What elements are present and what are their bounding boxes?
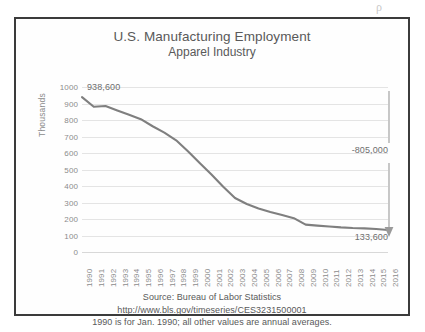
y-tick-0: 0: [73, 248, 78, 257]
x-tick-2011: 2011: [332, 269, 341, 287]
y-tick-200: 200: [64, 215, 78, 224]
line-series: [82, 87, 388, 252]
annotation-start-value: 938,600: [87, 82, 120, 92]
source-line-1: Source: Bureau of Labor Statistics: [16, 291, 408, 304]
x-tick-2014: 2014: [368, 269, 377, 287]
annotation-end-value: 133,600: [340, 232, 388, 242]
x-tick-2001: 2001: [215, 269, 224, 287]
x-tick-1996: 1996: [156, 269, 165, 287]
y-tick-700: 700: [64, 132, 78, 141]
source-line-2: http://www.bls.gov/timeseries/CES3231500…: [16, 304, 408, 317]
x-tick-1993: 1993: [121, 269, 130, 287]
change-arrow-icon: [382, 91, 396, 237]
y-axis-tick-labels: 10009008007006005004003002001000: [50, 87, 78, 252]
x-tick-2015: 2015: [379, 269, 388, 287]
x-tick-1998: 1998: [179, 269, 188, 287]
x-tick-2008: 2008: [297, 269, 306, 287]
x-tick-1997: 1997: [168, 269, 177, 287]
chart-title-block: U.S. Manufacturing Employment Apparel In…: [16, 28, 408, 60]
y-tick-500: 500: [64, 165, 78, 174]
y-tick-300: 300: [64, 198, 78, 207]
x-tick-2010: 2010: [321, 269, 330, 287]
x-tick-2006: 2006: [274, 269, 283, 287]
chart-title: U.S. Manufacturing Employment: [16, 28, 408, 45]
plot-area: [82, 87, 388, 252]
x-axis-tick-labels: 1990199119921993199419951996199719981999…: [82, 255, 388, 289]
x-tick-1990: 1990: [85, 269, 94, 287]
y-tick-900: 900: [64, 99, 78, 108]
chart-subtitle: Apparel Industry: [16, 45, 408, 60]
x-tick-1995: 1995: [144, 269, 153, 287]
series-polyline: [82, 97, 388, 230]
source-line-3: 1990 is for Jan. 1990; all other values …: [16, 316, 408, 329]
x-tick-2012: 2012: [344, 269, 353, 287]
x-tick-2005: 2005: [262, 269, 271, 287]
x-tick-2000: 2000: [203, 269, 212, 287]
scan-artifact-glyph: ρ: [372, 1, 386, 14]
x-tick-2003: 2003: [238, 269, 247, 287]
y-tick-600: 600: [64, 149, 78, 158]
x-tick-2016: 2016: [391, 269, 400, 287]
source-note: Source: Bureau of Labor Statistics http:…: [16, 291, 408, 329]
x-tick-1991: 1991: [97, 269, 106, 287]
chart-figure-frame: U.S. Manufacturing Employment Apparel In…: [14, 17, 410, 316]
x-tick-2007: 2007: [285, 269, 294, 287]
y-tick-400: 400: [64, 182, 78, 191]
gridline-0: [82, 252, 388, 253]
x-tick-1992: 1992: [109, 269, 118, 287]
x-tick-2013: 2013: [356, 269, 365, 287]
y-axis-title: Thousands: [37, 93, 47, 137]
y-tick-1000: 1000: [60, 83, 78, 92]
y-tick-100: 100: [64, 231, 78, 240]
x-tick-1999: 1999: [191, 269, 200, 287]
y-tick-800: 800: [64, 116, 78, 125]
x-tick-2002: 2002: [226, 269, 235, 287]
x-tick-2009: 2009: [309, 269, 318, 287]
x-tick-1994: 1994: [132, 269, 141, 287]
x-tick-2004: 2004: [250, 269, 259, 287]
